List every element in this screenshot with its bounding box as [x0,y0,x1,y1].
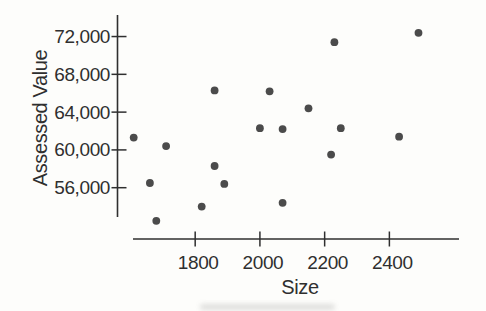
data-point [211,87,219,95]
data-point [395,133,403,141]
y-tick-label: 56,000 [54,177,110,198]
scan-artifact [200,304,335,310]
x-axis-ticks: 1800200022002400 [178,232,413,274]
data-point [220,180,228,188]
data-point [327,151,335,159]
data-point [130,134,138,142]
y-tick-label: 68,000 [54,64,110,85]
x-tick-label: 2400 [372,252,413,273]
x-tick-label: 1800 [178,252,219,273]
y-axis-ticks: 56,00060,00064,00068,00072,000 [54,26,126,198]
y-axis-title: Assessed Value [29,50,51,187]
data-point [331,38,339,46]
axes [118,15,460,239]
data-point [211,162,219,170]
y-tick-label: 64,000 [54,102,110,123]
x-axis-title: Size [281,276,319,298]
y-tick-label: 72,000 [54,26,110,47]
data-point [266,87,274,95]
scatter-chart: 56,00060,00064,00068,00072,000 180020002… [0,0,486,311]
data-points [130,29,423,225]
x-tick-label: 2200 [307,252,348,273]
data-point [152,217,160,225]
data-point [146,179,154,187]
data-point [415,29,423,37]
x-tick-label: 2000 [243,252,284,273]
data-point [198,203,206,211]
y-tick-label: 60,000 [54,139,110,160]
data-point [162,142,170,150]
data-point [279,125,287,133]
data-point [337,124,345,132]
data-point [279,199,287,207]
scatter-plot-figure: 56,00060,00064,00068,00072,000 180020002… [0,0,486,311]
data-point [256,124,264,132]
data-point [305,104,313,112]
